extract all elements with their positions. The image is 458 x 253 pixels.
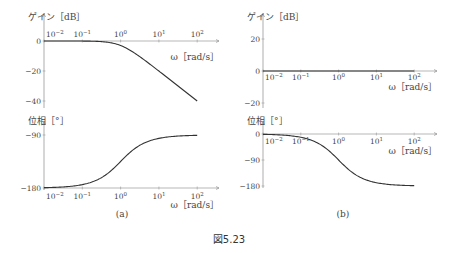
x-axis-title: ω［rad/s］	[389, 146, 437, 156]
x-tick-label: 102	[191, 29, 204, 39]
x-axis-title: ω［rad/s］	[171, 200, 219, 210]
y-axis-title: ゲイン［dB］	[247, 11, 304, 22]
x-tick-label: 10−2	[265, 72, 283, 82]
x-tick-label: 102	[408, 136, 421, 146]
y-tick-label: −90	[25, 131, 41, 140]
x-tick-label: 101	[370, 136, 383, 146]
panel-b-label: (b)	[337, 209, 350, 219]
y-tick-label: −40	[25, 97, 41, 106]
y-tick-label: −20	[244, 99, 260, 108]
x-axis-title: ω［rad/s］	[389, 82, 437, 92]
x-tick-label: 101	[370, 72, 383, 82]
y-tick-label: 0	[255, 130, 260, 139]
y-tick-label: −180	[20, 184, 41, 193]
x-axis-title: ω［rad/s］	[171, 52, 219, 62]
x-tick-label: 10−2	[265, 136, 283, 146]
x-tick-label: 10−1	[73, 29, 91, 39]
x-tick-label: 10−1	[73, 191, 91, 201]
figure-caption: 図5.23	[213, 234, 245, 245]
x-tick-label: 102	[408, 72, 421, 82]
y-tick-label: −180	[239, 182, 260, 191]
y-tick-label: 20	[250, 35, 260, 44]
x-tick-label: 100	[114, 191, 128, 201]
x-tick-label: 10−2	[46, 191, 64, 201]
x-tick-label: 100	[332, 72, 346, 82]
panel-a-label: (a)	[116, 209, 128, 219]
y-axis-title: 位相［°］	[28, 115, 69, 126]
bode-figure: ゲイン［dB］10−210−11001011020−20−40ω［rad/s］位…	[0, 0, 458, 253]
x-tick-label: 101	[152, 191, 165, 201]
y-tick-label: −90	[244, 156, 260, 165]
x-tick-label: 100	[114, 29, 128, 39]
x-tick-label: 10−2	[46, 29, 64, 39]
y-tick-label: 0	[255, 67, 260, 76]
x-tick-label: 10−1	[292, 72, 310, 82]
response-curve	[44, 41, 197, 101]
response-curve	[44, 135, 197, 187]
x-tick-label: 100	[332, 136, 346, 146]
y-axis-title: ゲイン［dB］	[28, 11, 85, 22]
y-axis-title: 位相［°］	[247, 115, 288, 126]
x-tick-label: 101	[152, 29, 165, 39]
y-tick-label: 0	[36, 37, 41, 46]
y-tick-label: −20	[25, 67, 41, 76]
